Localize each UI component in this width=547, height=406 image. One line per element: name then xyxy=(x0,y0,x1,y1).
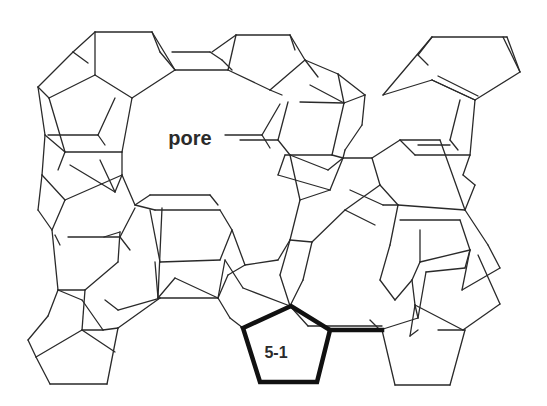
ring-5-1-label: 5-1 xyxy=(264,344,287,361)
zeolite-framework-diagram: pore 5-1 xyxy=(0,0,547,406)
pore-label: pore xyxy=(168,127,211,149)
